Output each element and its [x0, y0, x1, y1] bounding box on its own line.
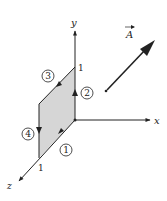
vector-base-point	[105, 90, 108, 93]
origin-point	[74, 119, 77, 122]
svg-text:4: 4	[25, 129, 31, 139]
vector-a-label: A	[125, 25, 135, 40]
segment-label-1: 1	[60, 144, 72, 156]
segment-label-4: 4	[22, 128, 34, 140]
segment-label-2: 2	[81, 87, 93, 99]
z-axis-label: z	[6, 181, 12, 191]
svg-text:2: 2	[84, 88, 90, 98]
y-tick-1: 1	[78, 63, 84, 73]
y-axis-label: y	[70, 17, 77, 28]
x-axis-label: x	[154, 115, 160, 126]
segment-label-3: 3	[42, 70, 54, 82]
vector-a-shaft	[107, 49, 146, 90]
svg-text:A: A	[125, 29, 133, 40]
svg-text:1: 1	[63, 145, 69, 155]
svg-text:3: 3	[45, 71, 51, 81]
z-tick-1: 1	[38, 163, 44, 173]
coordinate-diagram: y x z 1 1 1 2 3 4 A	[0, 0, 167, 201]
